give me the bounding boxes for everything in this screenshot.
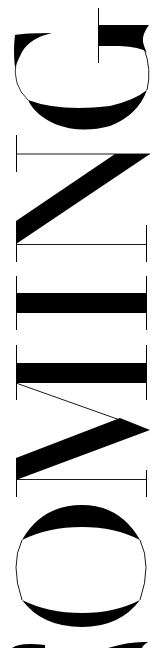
letter-n — [16, 135, 150, 262]
rotated-headline: COMING — [0, 0, 153, 648]
letter-m — [16, 345, 150, 497]
letter-g — [14, 8, 149, 130]
letter-c — [12, 642, 148, 648]
letter-i — [16, 276, 147, 330]
letter-o — [16, 505, 146, 627]
headline-glyphs — [0, 0, 153, 648]
